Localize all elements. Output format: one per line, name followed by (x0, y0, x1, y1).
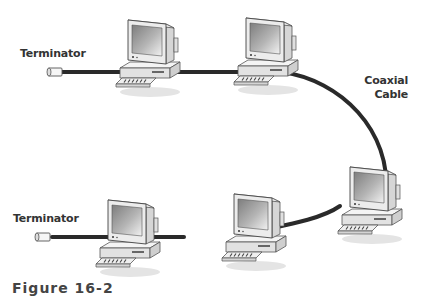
coaxial-cable-label-line2: Cable (350, 88, 408, 101)
coaxial-cable (52, 72, 386, 237)
computer-4-icon (222, 194, 286, 271)
terminator-bottom-icon (35, 233, 50, 241)
computer-3-icon (338, 167, 402, 244)
computer-2-icon (234, 18, 298, 95)
terminator-label-bottom: Terminator (13, 212, 79, 225)
terminator-label-top: Terminator (20, 47, 86, 60)
figure-caption: Figure 16-2 (12, 280, 114, 296)
coaxial-cable-label-line1: Coaxial (350, 74, 408, 87)
terminator-top-icon (47, 68, 62, 76)
computer-1-icon (116, 20, 180, 97)
